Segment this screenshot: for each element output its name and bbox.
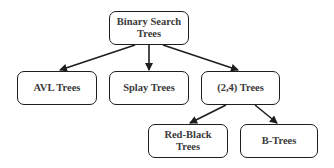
edge-arrow-two-four-to-red-black [190,105,226,123]
node-binary-search-trees: Binary Search Trees [109,11,189,45]
edge-arrow-bst-to-two-four [163,45,238,70]
node-red-black-trees: Red-Black Trees [148,124,228,158]
node-label: B-Trees [262,135,297,147]
node-label: Splay Trees [123,82,175,94]
edge-arrow-two-four-to-b-trees [255,105,277,123]
node-label: AVL Trees [34,82,81,94]
node-2-4-trees: (2,4) Trees [201,71,280,105]
node-label: (2,4) Trees [217,82,264,94]
node-b-trees: B-Trees [240,124,318,158]
node-label: Binary Search Trees [117,16,181,40]
node-label: Red-Black Trees [152,129,224,153]
node-splay-trees: Splay Trees [109,71,189,105]
node-avl-trees: AVL Trees [17,71,97,105]
edge-arrow-bst-to-avl [60,45,135,70]
tree-hierarchy-diagram: Binary Search Trees AVL Trees Splay Tree… [0,0,334,168]
